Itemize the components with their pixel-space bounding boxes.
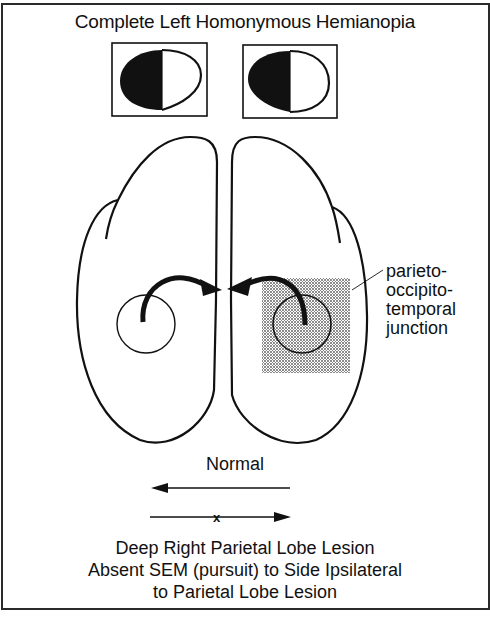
impaired-pursuit-arrow: x <box>150 510 291 525</box>
lesion-label-line4: junction <box>386 319 448 338</box>
lesion-area <box>262 278 350 373</box>
leader-line <box>352 270 383 290</box>
left-hemisphere <box>77 137 217 443</box>
lesion-label-line2: occipito- <box>386 281 453 300</box>
caption-line-3: to Parietal Lobe Lesion <box>0 582 490 603</box>
lesion-label-line1: parieto- <box>386 262 447 281</box>
caption-line-1: Deep Right Parietal Lobe Lesion <box>0 538 490 559</box>
visual-field-left-eye <box>112 43 207 116</box>
normal-label: Normal <box>206 454 264 475</box>
left-arrow <box>143 278 222 322</box>
impaired-marker: x <box>213 510 221 525</box>
visual-field-right-eye <box>243 45 337 118</box>
normal-pursuit-arrow <box>151 483 290 493</box>
caption-line-2: Absent SEM (pursuit) to Side Ipsilateral <box>0 560 490 581</box>
lesion-label-line3: temporal <box>386 300 456 319</box>
